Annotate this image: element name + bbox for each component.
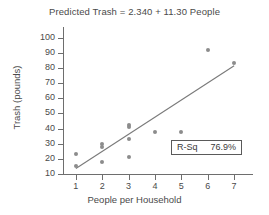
r-squared-label: R-Sq	[177, 142, 198, 152]
y-tick-mark	[58, 98, 63, 99]
data-point	[127, 155, 131, 159]
y-tick-label: 80	[21, 63, 55, 72]
x-tick-mark	[129, 175, 130, 180]
y-tick-label: 10	[21, 169, 55, 178]
data-point	[127, 125, 131, 129]
x-tick-label: 1	[66, 181, 86, 191]
x-tick-mark	[155, 175, 156, 180]
x-tick-label: 2	[92, 181, 112, 191]
y-tick-mark	[58, 144, 63, 145]
y-tick-label: 70	[21, 78, 55, 87]
y-tick-mark	[58, 129, 63, 130]
x-axis-line	[63, 174, 253, 175]
y-tick-label: 90	[21, 48, 55, 57]
y-tick-mark	[58, 174, 63, 175]
data-point	[100, 145, 104, 149]
r-squared-annotation: R-Sq 76.9%	[171, 140, 242, 155]
y-tick-mark	[58, 113, 63, 114]
y-tick-label: 40	[21, 124, 55, 133]
data-point	[153, 130, 157, 134]
x-tick-mark	[181, 175, 182, 180]
y-tick-mark	[58, 68, 63, 69]
x-tick-mark	[208, 175, 209, 180]
y-tick-label: 100	[21, 33, 55, 42]
y-axis-title: Trash (pounds)	[11, 28, 22, 168]
y-tick-label: 20	[21, 154, 55, 163]
x-tick-label: 4	[145, 181, 165, 191]
y-tick-label: 50	[21, 108, 55, 117]
x-tick-mark	[76, 175, 77, 180]
y-tick-mark	[58, 159, 63, 160]
x-tick-mark	[234, 175, 235, 180]
x-tick-label: 3	[119, 181, 139, 191]
y-tick-label: 60	[21, 93, 55, 102]
y-tick-mark	[58, 38, 63, 39]
chart-title: Predicted Trash = 2.340 + 11.30 People	[0, 6, 269, 17]
fitted-line-plot: Predicted Trash = 2.340 + 11.30 People T…	[0, 0, 269, 215]
y-tick-mark	[58, 53, 63, 54]
x-tick-label: 7	[224, 181, 244, 191]
y-tick-mark	[58, 83, 63, 84]
r-squared-value: 76.9%	[211, 142, 237, 152]
x-tick-mark	[102, 175, 103, 180]
data-point	[206, 48, 210, 52]
x-axis-title: People per Household	[0, 194, 269, 205]
data-point	[127, 137, 131, 141]
x-tick-label: 6	[198, 181, 218, 191]
x-tick-label: 5	[171, 181, 191, 191]
data-point	[179, 130, 183, 134]
y-tick-label: 30	[21, 139, 55, 148]
